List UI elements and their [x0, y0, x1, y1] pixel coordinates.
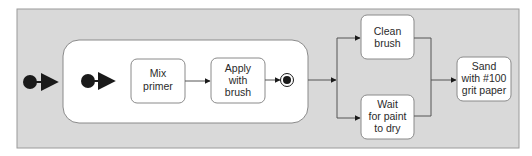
activity-diagram: Mix primer Apply with brush Clean brush …	[0, 0, 532, 156]
action-clean-brush: Clean brush	[361, 15, 414, 59]
action-label: to dry	[374, 122, 401, 134]
action-label: Wait	[377, 98, 398, 110]
action-label: with	[228, 74, 248, 86]
inner-final-node	[281, 74, 294, 87]
action-label: Clean	[374, 25, 402, 37]
action-wait-for-paint-to-dry: Wait for paint to dry	[361, 95, 414, 139]
action-sand-with-grit-paper: Sand with #100 grit paper	[457, 57, 511, 101]
action-label: Apply	[225, 62, 252, 74]
action-label: Sand	[472, 60, 497, 72]
action-label: grit paper	[462, 84, 507, 96]
action-mix-primer: Mix primer	[131, 59, 185, 103]
action-apply-with-brush: Apply with brush	[211, 58, 265, 103]
action-label: brush	[225, 86, 251, 98]
action-label: Mix	[150, 67, 167, 79]
action-label: brush	[374, 37, 400, 49]
action-label: primer	[143, 80, 173, 92]
action-label: with #100	[461, 72, 507, 84]
action-label: for paint	[369, 110, 407, 122]
